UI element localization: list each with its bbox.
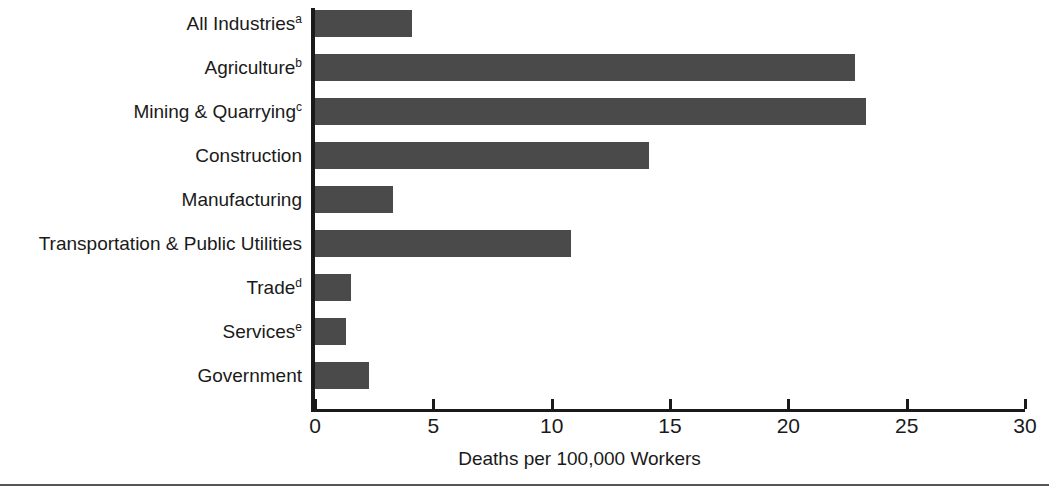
x-axis-tick-label: 25 <box>884 414 930 438</box>
x-axis-tick <box>314 399 317 409</box>
category-label: Agricultureb <box>204 54 302 81</box>
category-label-text: Mining & Quarrying <box>133 101 296 122</box>
category-label: Transportation & Public Utilities <box>39 230 302 257</box>
x-axis-tick <box>432 399 435 409</box>
category-axis-labels: All Industriesa Agricultureb Mining & Qu… <box>0 10 310 410</box>
x-axis-tick-label: 5 <box>410 414 456 438</box>
x-axis-title: Deaths per 100,000 Workers <box>0 448 1049 470</box>
chart-page: All Industriesa Agricultureb Mining & Qu… <box>0 0 1049 495</box>
category-label-text: Trade <box>246 277 295 298</box>
category-footnote: d <box>295 276 302 290</box>
x-axis-line <box>311 409 1025 412</box>
category-label-text: Transportation & Public Utilities <box>39 233 302 254</box>
bar <box>315 186 393 213</box>
bar <box>315 274 351 301</box>
category-label: Manufacturing <box>182 186 302 213</box>
x-axis-tick <box>1024 399 1027 409</box>
x-axis-tick <box>906 399 909 409</box>
category-label: Mining & Quarryingc <box>133 98 302 125</box>
x-axis-tick-label: 20 <box>765 414 811 438</box>
category-label-text: Services <box>222 321 295 342</box>
x-axis-tick-label: 0 <box>292 414 338 438</box>
bar <box>315 142 649 169</box>
category-label: Construction <box>195 142 302 169</box>
bar <box>315 98 866 125</box>
category-footnote: a <box>295 12 302 26</box>
category-label-text: All Industries <box>187 13 296 34</box>
category-label: Traded <box>246 274 302 301</box>
plot-area <box>315 10 1025 410</box>
category-footnote: e <box>295 320 302 334</box>
x-axis-title-text: Deaths per 100,000 Workers <box>458 448 701 470</box>
bar <box>315 230 571 257</box>
category-footnote: c <box>296 100 302 114</box>
category-label: All Industriesa <box>187 10 302 37</box>
x-axis-tick-label: 15 <box>647 414 693 438</box>
bar <box>315 54 855 81</box>
category-label: Servicese <box>222 318 302 345</box>
bar-chart: All Industriesa Agricultureb Mining & Qu… <box>0 0 1049 440</box>
x-axis-tick-label: 30 <box>1002 414 1048 438</box>
bar <box>315 10 412 37</box>
category-footnote: b <box>295 56 302 70</box>
y-axis-line <box>311 8 315 412</box>
bar <box>315 362 369 389</box>
x-axis-tick <box>787 399 790 409</box>
category-label-text: Manufacturing <box>182 189 302 210</box>
category-label: Government <box>197 362 302 389</box>
x-axis-tick <box>551 399 554 409</box>
footer-divider <box>0 484 1049 486</box>
category-label-text: Construction <box>195 145 302 166</box>
category-label-text: Agriculture <box>204 57 295 78</box>
x-axis-tick-label: 10 <box>529 414 575 438</box>
bar <box>315 318 346 345</box>
category-label-text: Government <box>197 365 302 386</box>
x-axis-tick <box>669 399 672 409</box>
